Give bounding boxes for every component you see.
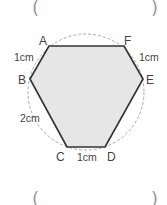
- vertex-label-a: A: [39, 34, 47, 48]
- answer-bracket-bottom-close: ): [151, 188, 158, 205]
- measure-cd: 1cm: [77, 151, 97, 163]
- answer-bracket-top-open: (: [32, 0, 39, 18]
- answer-bracket-top-close: ): [151, 0, 158, 18]
- measure-bc: 2cm: [20, 112, 40, 124]
- measure-fe: 1cm: [139, 51, 159, 63]
- hexagon-shape: [30, 46, 143, 147]
- vertex-label-d: D: [107, 150, 116, 164]
- measure-ab: 1cm: [14, 51, 34, 63]
- vertex-label-b: B: [18, 73, 26, 87]
- vertex-label-f: F: [124, 34, 131, 48]
- answer-bracket-bottom-open: (: [32, 188, 39, 205]
- vertex-label-e: E: [146, 73, 154, 87]
- hexagon-diagram: ( ) A F B E C D 1cm 1cm 2cm 1cm ( ): [0, 0, 167, 205]
- vertex-label-c: C: [56, 150, 65, 164]
